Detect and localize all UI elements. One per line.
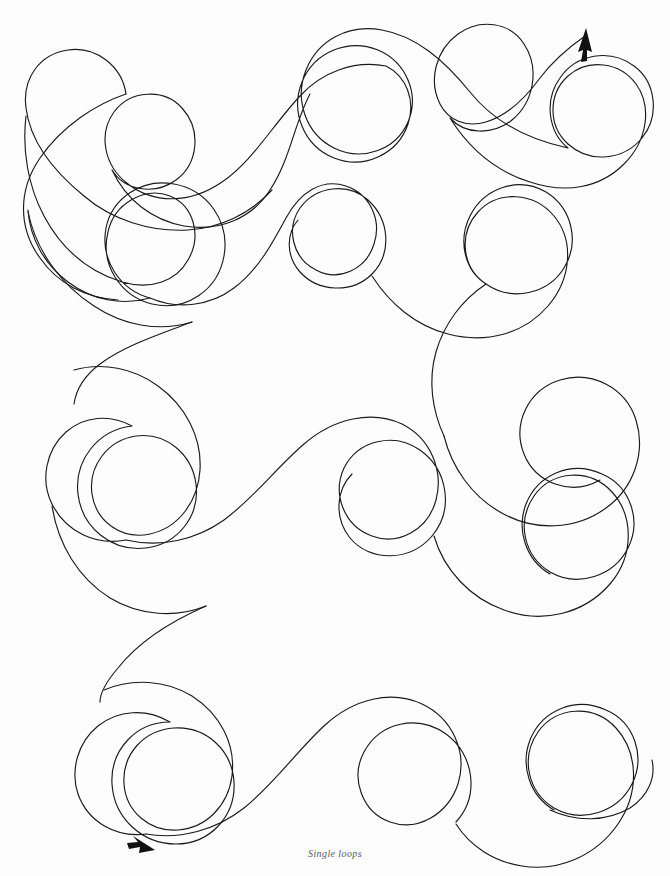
worksheet-page: Single loops xyxy=(0,0,670,876)
page-background xyxy=(0,0,670,876)
caption-label: Single loops xyxy=(0,848,670,859)
single-loops-drawing xyxy=(0,0,670,876)
